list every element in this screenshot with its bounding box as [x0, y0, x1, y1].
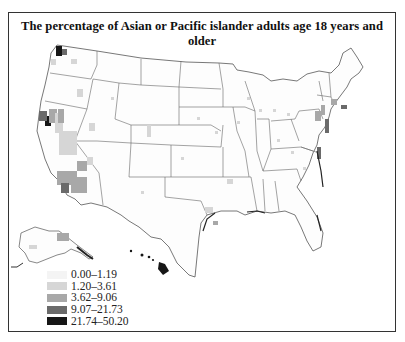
- legend-item: 21.74–50.20: [47, 315, 129, 327]
- legend-swatch: [47, 271, 67, 279]
- legend-item: 1.20–3.61: [47, 281, 129, 293]
- legend-swatch: [47, 294, 67, 302]
- legend-swatch: [47, 282, 67, 290]
- legend-label: 9.07–21.73: [71, 304, 123, 315]
- legend-item: 3.62–9.06: [47, 292, 129, 304]
- legend-label: 21.74–50.20: [71, 316, 129, 327]
- legend-item: 9.07–21.73: [47, 304, 129, 316]
- legend-label: 1.20–3.61: [71, 281, 117, 292]
- legend-label: 0.00–1.19: [71, 269, 117, 280]
- legend: 0.00–1.19 1.20–3.61 3.62–9.06 9.07–21.73…: [47, 269, 129, 327]
- hawaii-inset: [130, 250, 169, 275]
- legend-swatch: [47, 317, 67, 325]
- legend-swatch: [47, 306, 67, 314]
- map-frame: The percentage of Asian or Pacific islan…: [8, 12, 396, 332]
- alaska-inset: [11, 227, 93, 267]
- legend-item: 0.00–1.19: [47, 269, 129, 281]
- legend-label: 3.62–9.06: [71, 292, 117, 303]
